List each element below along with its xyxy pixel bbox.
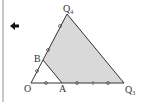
back-arrow-icon[interactable] [10,22,19,30]
label-b: B [34,53,41,64]
label-a: A [59,83,67,94]
shaded-region [43,14,124,83]
label-o: O [24,83,31,94]
label-q3: Q3 [125,84,135,96]
label-q4: Q4 [63,3,73,15]
triangle-diagram: Q4 Q3 O A B [0,0,143,102]
